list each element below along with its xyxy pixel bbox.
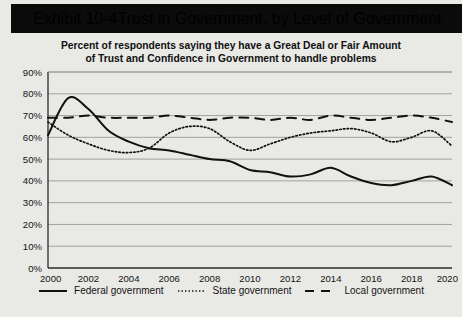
y-tick-label: 90% [23, 67, 43, 78]
y-tick-label: 10% [23, 241, 43, 252]
x-tick-label: 2008 [199, 273, 220, 284]
y-tick-label: 50% [23, 154, 43, 165]
chart-legend: Federal government State government Loca… [0, 285, 462, 296]
y-tick-label: 70% [23, 110, 43, 121]
x-tick-label: 2006 [159, 273, 180, 284]
x-tick-label: 2016 [361, 273, 382, 284]
x-tick-label: 2012 [280, 273, 301, 284]
y-axis-tick-labels: 0%10%20%30%40%50%60%70%80%90% [23, 67, 43, 274]
legend-item-local: Local government [304, 285, 424, 296]
chart-plot-area: 0%10%20%30%40%50%60%70%80%90% 2000200220… [0, 33, 462, 317]
x-tick-label: 2000 [40, 273, 61, 284]
y-tick-label: 40% [23, 175, 43, 186]
y-tick-label: 30% [23, 197, 43, 208]
x-tick-label: 2002 [78, 273, 99, 284]
y-tick-label: 60% [23, 132, 43, 143]
legend-swatch-dashed-icon [304, 286, 338, 296]
x-tick-label: 2004 [118, 273, 140, 284]
page-title: Trust in Government, by Level of Governm… [118, 10, 442, 28]
series-line [48, 116, 452, 123]
data-series [48, 97, 452, 185]
y-tick-label: 20% [23, 219, 43, 230]
legend-swatch-dotted-icon [177, 286, 207, 296]
line-chart-svg: 0%10%20%30%40%50%60%70%80%90% 2000200220… [0, 33, 462, 317]
x-axis-tick-labels: 2000200220042006200820102012201420162018… [40, 273, 458, 284]
grid-lines [48, 72, 452, 246]
legend-item-state: State government [177, 285, 292, 296]
legend-label-federal: Federal government [74, 285, 164, 296]
exhibit-number: Exhibit 10-4 [33, 10, 118, 28]
legend-item-federal: Federal government [38, 285, 164, 296]
y-tick-label: 80% [23, 88, 43, 99]
x-tick-label: 2018 [401, 273, 422, 284]
legend-swatch-solid-icon [38, 286, 68, 296]
figure-body: Percent of respondents saying they have … [0, 33, 462, 317]
y-tick-label: 0% [28, 263, 42, 274]
x-tick-label: 2010 [239, 273, 260, 284]
exhibit-figure: Exhibit 10-4 Trust in Government, by Lev… [0, 0, 462, 317]
legend-label-local: Local government [344, 285, 424, 296]
legend-label-state: State government [213, 285, 292, 296]
exhibit-title-bar: Exhibit 10-4 Trust in Government, by Lev… [11, 4, 462, 33]
x-tick-label: 2020 [437, 273, 458, 284]
series-line [48, 97, 452, 185]
x-tick-label: 2014 [320, 273, 342, 284]
